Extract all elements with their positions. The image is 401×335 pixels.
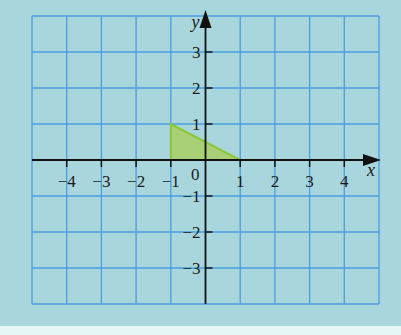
x-axis-label: x — [366, 160, 375, 180]
y-axis-arrow-icon — [200, 10, 212, 28]
x-tick-label: 4 — [340, 172, 349, 191]
y-tick-label: −2 — [182, 223, 200, 242]
y-tick-label: 2 — [192, 79, 201, 98]
x-tick-label: 3 — [305, 172, 314, 191]
origin-label: 0 — [191, 165, 200, 184]
y-tick-label: 3 — [192, 43, 201, 62]
x-tick-label: −1 — [162, 172, 180, 191]
y-tick-label: −1 — [182, 187, 200, 206]
x-tick-label: −3 — [92, 172, 110, 191]
y-tick-label: −3 — [182, 259, 200, 278]
x-tick-label: 1 — [236, 172, 245, 191]
y-tick-label: 1 — [192, 115, 201, 134]
coordinate-plane: −4−3−2−11234321−1−2−30xy — [0, 0, 401, 335]
x-tick-label: −4 — [58, 172, 77, 191]
y-axis-label: y — [190, 12, 200, 32]
x-tick-label: −2 — [127, 172, 145, 191]
x-tick-label: 2 — [271, 172, 280, 191]
